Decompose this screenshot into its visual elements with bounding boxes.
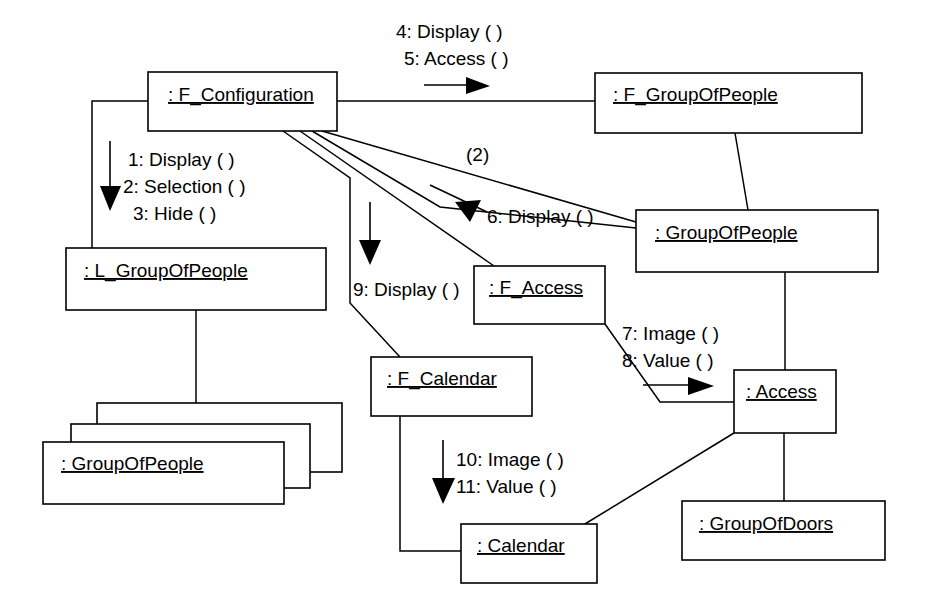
message-arrow-1-2-3 xyxy=(100,141,121,211)
object-groupofdoors[interactable]: : GroupOfDoors xyxy=(682,501,885,560)
object-label-f-configuration: : F_Configuration xyxy=(168,84,314,106)
object-f-access[interactable]: : F_Access xyxy=(474,266,605,324)
arrow-head xyxy=(359,240,381,265)
object-f-groupofpeople[interactable]: : F_GroupOfPeople xyxy=(595,73,862,133)
object-groupofpeople-right[interactable]: : GroupOfPeople xyxy=(636,210,878,272)
arrow-head xyxy=(688,377,714,395)
arrow-head xyxy=(432,478,455,504)
object-calendar[interactable]: : Calendar xyxy=(461,524,597,583)
message-label-10: 10: Image ( ) xyxy=(456,449,564,470)
message-label-3: 3: Hide ( ) xyxy=(133,203,216,224)
object-label-access: : Access xyxy=(746,381,817,402)
object-f-configuration[interactable]: : F_Configuration xyxy=(148,72,337,131)
object-l-groupofpeople[interactable]: : L_GroupOfPeople xyxy=(66,248,326,310)
arrow-head xyxy=(100,186,121,211)
message-arrow-10-11 xyxy=(432,440,455,504)
object-label-groupofdoors: : GroupOfDoors xyxy=(699,513,833,534)
object-groupofpeople-multi[interactable]: : GroupOfPeople xyxy=(43,403,342,504)
object-label-l-groupofpeople: : L_GroupOfPeople xyxy=(84,260,248,282)
link-fconfiguration-fcalendar xyxy=(283,131,400,357)
object-label-groupofpeople-right: : GroupOfPeople xyxy=(655,222,798,243)
diagram-canvas: : F_Configuration : F_GroupOfPeople : Gr… xyxy=(0,0,926,612)
message-label-6: 6: Display ( ) xyxy=(487,206,594,227)
uml-collaboration-diagram: : F_Configuration : F_GroupOfPeople : Gr… xyxy=(0,0,926,612)
message-arrow-6 xyxy=(430,185,487,222)
message-label-9: 9: Display ( ) xyxy=(353,279,460,300)
message-label-2: 2: Selection ( ) xyxy=(123,176,246,197)
link-fgroupofpeople-groupofpeople xyxy=(735,133,748,210)
message-label-7: 7: Image ( ) xyxy=(622,323,719,344)
object-label-f-access: : F_Access xyxy=(489,277,583,299)
link-fconfiguration-faccess xyxy=(300,131,494,266)
object-label-groupofpeople-multi: : GroupOfPeople xyxy=(61,453,204,474)
message-label-4: 4: Display ( ) xyxy=(396,21,503,42)
message-arrow-4-5 xyxy=(424,77,490,94)
message-arrow-line xyxy=(430,185,487,212)
message-label-8: 8: Value ( ) xyxy=(622,350,714,371)
object-access[interactable]: : Access xyxy=(734,370,836,433)
message-label-11: 11: Value ( ) xyxy=(456,476,557,497)
multiplicity-label-2: (2) xyxy=(466,144,489,165)
object-label-f-groupofpeople: : F_GroupOfPeople xyxy=(613,84,778,106)
object-f-calendar[interactable]: : F_Calendar xyxy=(371,357,532,416)
message-arrow-9 xyxy=(359,202,381,265)
arrow-head xyxy=(466,77,490,94)
object-label-f-calendar: : F_Calendar xyxy=(387,368,498,390)
message-label-1: 1: Display ( ) xyxy=(128,149,235,170)
message-label-5: 5: Access ( ) xyxy=(404,48,509,69)
object-label-calendar: : Calendar xyxy=(477,535,565,556)
